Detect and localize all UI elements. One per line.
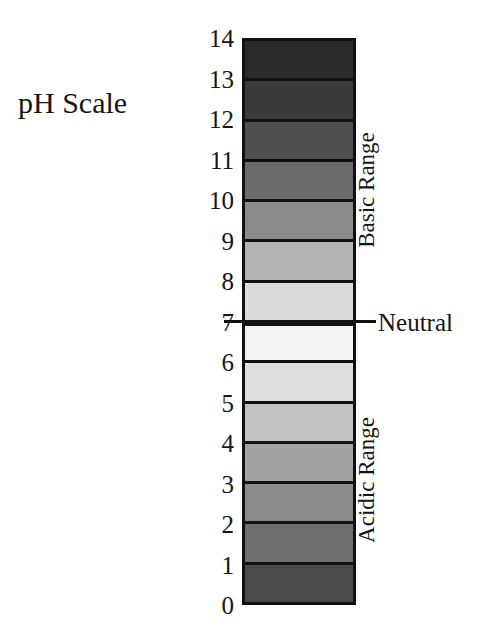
ph-tick-label-5: 5	[190, 390, 234, 415]
ph-band-10-11	[245, 162, 353, 202]
ph-band-11-12	[245, 122, 353, 162]
acidic-range-label: Acidic Range	[355, 417, 378, 543]
ph-tick-label-3: 3	[190, 471, 234, 496]
ph-band-5-6	[245, 363, 353, 403]
ph-tick-label-2: 2	[190, 512, 234, 537]
ph-band-1-2	[245, 524, 353, 564]
ph-band-2-3	[245, 484, 353, 524]
ph-band-0-1	[245, 565, 353, 602]
ph-tick-label-11: 11	[190, 147, 234, 172]
ph-band-group	[245, 41, 353, 602]
ph-tick-label-14: 14	[190, 26, 234, 51]
ph-tick-label-4: 4	[190, 431, 234, 456]
neutral-leader-line-right	[354, 320, 376, 323]
basic-range-label: Basic Range	[355, 132, 378, 248]
ph-tick-label-6: 6	[190, 350, 234, 375]
ph-scale-bar	[242, 38, 356, 605]
ph-band-7-8	[245, 283, 353, 323]
neutral-label: Neutral	[378, 309, 453, 334]
ph-tick-label-10: 10	[190, 188, 234, 213]
ph-tick-label-12: 12	[190, 107, 234, 132]
ph-tick-axis: 14131211109876543210	[0, 0, 242, 631]
ph-band-13-14	[245, 41, 353, 81]
ph-tick-label-13: 13	[190, 66, 234, 91]
neutral-divider-line	[245, 323, 353, 326]
ph-tick-label-9: 9	[190, 228, 234, 253]
ph-band-3-4	[245, 444, 353, 484]
ph-band-6-7	[245, 323, 353, 363]
ph-band-8-9	[245, 242, 353, 282]
ph-tick-label-8: 8	[190, 269, 234, 294]
ph-band-12-13	[245, 81, 353, 121]
ph-band-9-10	[245, 202, 353, 242]
ph-tick-label-0: 0	[190, 593, 234, 618]
ph-tick-label-1: 1	[190, 552, 234, 577]
neutral-leader-line-left	[224, 320, 244, 323]
ph-band-4-5	[245, 404, 353, 444]
